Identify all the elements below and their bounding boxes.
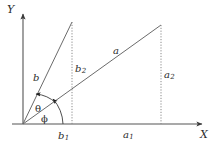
theta-arc (36, 94, 56, 103)
vector-diagram: Y X b a b2 a2 b1 a1 θ ϕ (0, 0, 221, 153)
b1-label: b1 (58, 131, 69, 142)
vector-b-label: b (33, 73, 39, 83)
phi-arc (53, 99, 63, 124)
phi-label: ϕ (41, 114, 48, 124)
y-axis-label: Y (7, 4, 14, 15)
a2-label: a2 (164, 70, 175, 81)
b1-label-sub: 1 (64, 134, 69, 142)
a1-label: a1 (123, 130, 134, 141)
a1-label-sub: 1 (129, 133, 134, 141)
vector-b-line (23, 22, 72, 124)
x-axis-label: X (200, 129, 208, 140)
vector-a-line (23, 25, 161, 124)
b2-label-sub: 2 (81, 67, 86, 75)
vector-a-label: a (113, 46, 119, 56)
b2-label: b2 (75, 64, 86, 75)
a2-label-sub: 2 (170, 73, 175, 81)
